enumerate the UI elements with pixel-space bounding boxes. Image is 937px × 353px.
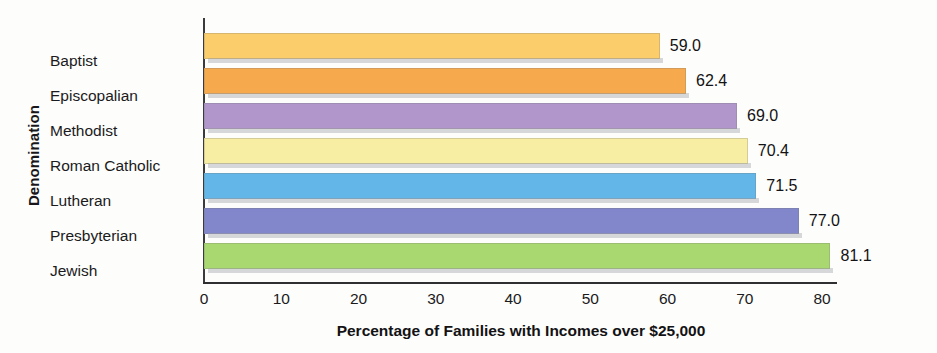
bar-value-label: 81.1: [840, 245, 871, 267]
bar-chart: Denomination BaptistEpiscopalianMethodis…: [0, 0, 937, 353]
bar-value-label: 77.0: [809, 210, 840, 232]
bar: [204, 208, 799, 234]
plot-area: 59.062.469.070.471.577.081.1 01020304050…: [204, 18, 844, 283]
bar: [204, 243, 830, 269]
category-label: Jewish: [50, 263, 194, 279]
category-label: Baptist: [50, 53, 194, 69]
x-tick-label: 10: [273, 290, 290, 308]
bar-row: 77.0: [204, 208, 822, 236]
x-tick-label: 50: [582, 290, 599, 308]
category-label: Roman Catholic: [50, 158, 194, 174]
bar-value-label: 71.5: [766, 175, 797, 197]
x-axis-line: [203, 282, 837, 284]
bar-row: 81.1: [204, 243, 822, 271]
bar-row: 69.0: [204, 103, 822, 131]
bar: [204, 68, 686, 94]
x-tick-label: 80: [813, 290, 830, 308]
x-tick-label: 70: [736, 290, 753, 308]
category-label: Lutheran: [50, 193, 194, 209]
bar-row: 70.4: [204, 138, 822, 166]
bar-value-label: 59.0: [670, 35, 701, 57]
y-axis-category-labels: BaptistEpiscopalianMethodistRoman Cathol…: [50, 33, 198, 281]
x-tick-label: 20: [350, 290, 367, 308]
bar: [204, 33, 660, 59]
category-label: Episcopalian: [50, 88, 194, 104]
x-tick-label: 40: [504, 290, 521, 308]
bar-row: 62.4: [204, 68, 822, 96]
bar-value-label: 69.0: [747, 105, 778, 127]
x-tick-label: 0: [200, 290, 209, 308]
category-label: Methodist: [50, 123, 194, 139]
y-axis-title: Denomination: [22, 60, 46, 250]
bar-row: 71.5: [204, 173, 822, 201]
bar-value-label: 70.4: [758, 140, 789, 162]
bar: [204, 138, 748, 164]
bar-value-label: 62.4: [696, 70, 727, 92]
x-axis-title: Percentage of Families with Incomes over…: [204, 322, 838, 340]
y-axis-title-text: Denomination: [26, 104, 43, 205]
category-label: Presbyterian: [50, 228, 194, 244]
x-tick-label: 60: [659, 290, 676, 308]
x-tick-label: 30: [427, 290, 444, 308]
bar: [204, 173, 756, 199]
bar: [204, 103, 737, 129]
bar-row: 59.0: [204, 33, 822, 61]
